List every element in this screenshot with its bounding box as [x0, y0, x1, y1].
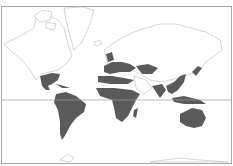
region-north-africa: [98, 76, 134, 84]
region-india: [152, 84, 166, 98]
region-central-america: [40, 73, 60, 90]
iceland-outline: [94, 40, 102, 46]
region-madagascar: [133, 108, 138, 118]
region-australia: [180, 108, 206, 128]
region-caribbean: [56, 84, 70, 88]
region-africa: [96, 88, 140, 122]
land-outlines: [4, 7, 228, 162]
eurasia-outline: [104, 24, 222, 82]
north-america-outline: [4, 14, 72, 80]
greenland-outline: [64, 7, 94, 50]
world-map: [0, 0, 233, 166]
region-south-america: [54, 92, 86, 140]
antarctica-outline: [60, 154, 228, 162]
